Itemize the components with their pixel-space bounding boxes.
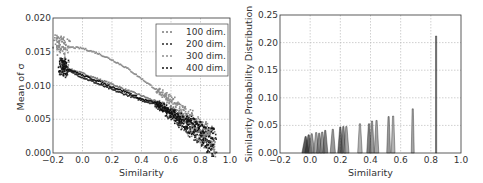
data-point	[178, 119, 180, 121]
data-point	[159, 106, 161, 108]
data-point	[157, 101, 159, 103]
data-point	[59, 70, 61, 72]
data-point	[178, 110, 180, 112]
data-point	[187, 128, 189, 130]
x-axis-label: Similarity	[348, 167, 393, 178]
data-point	[211, 155, 213, 157]
data-point	[178, 103, 180, 105]
data-point	[63, 73, 65, 75]
data-point	[59, 52, 61, 54]
data-point	[206, 143, 208, 145]
x-tick-label: 0.0	[303, 155, 318, 165]
data-point	[156, 107, 158, 109]
data-point	[166, 115, 168, 117]
data-point	[212, 133, 214, 135]
data-point	[106, 81, 108, 83]
data-point	[112, 59, 114, 61]
data-point	[204, 125, 206, 127]
data-point	[68, 61, 70, 63]
data-point	[175, 120, 177, 122]
data-point	[189, 114, 191, 116]
data-point	[210, 131, 212, 133]
data-point	[177, 103, 179, 105]
data-point	[55, 39, 57, 41]
data-point	[209, 131, 211, 133]
data-point	[213, 141, 215, 143]
x-tick-label: 0.2	[333, 155, 347, 165]
data-point	[184, 113, 186, 115]
x-axis-label: Similarity	[119, 167, 164, 178]
data-point	[182, 106, 184, 108]
data-point	[208, 142, 210, 144]
y-axis-label: Mean of σ	[15, 63, 26, 110]
data-point	[169, 109, 171, 111]
x-tick-label: 0.4	[134, 155, 149, 165]
data-point	[158, 104, 160, 106]
data-point	[193, 131, 195, 133]
data-point	[135, 95, 137, 97]
data-point	[176, 113, 178, 115]
data-point	[65, 59, 67, 61]
legend-marker	[162, 67, 164, 69]
data-point	[205, 129, 207, 131]
data-point	[203, 132, 205, 134]
data-point	[203, 127, 205, 129]
y-tick-label: 0.020	[25, 13, 51, 23]
x-tick-label: 0.8	[193, 155, 208, 165]
data-point	[140, 77, 142, 79]
data-point	[203, 139, 205, 141]
data-point	[150, 84, 152, 86]
data-point	[204, 127, 206, 129]
data-point	[198, 138, 200, 140]
y-tick-label: 0.05	[258, 120, 278, 130]
data-point	[196, 140, 198, 142]
data-point	[191, 113, 193, 115]
data-point	[60, 58, 62, 60]
y-axis-label: Similarity Probability Distribution	[243, 6, 254, 163]
data-point	[196, 134, 198, 136]
data-point	[202, 131, 204, 133]
data-point	[210, 149, 212, 151]
data-point	[85, 48, 87, 50]
data-point	[191, 122, 193, 124]
data-point	[175, 115, 177, 117]
x-tick-label: 0.6	[394, 155, 409, 165]
data-point	[58, 43, 60, 45]
y-tick-label: 0.015	[25, 47, 51, 57]
data-point	[173, 109, 175, 111]
data-point	[66, 62, 68, 64]
data-point	[182, 116, 184, 118]
data-point	[215, 156, 217, 158]
data-point	[197, 131, 199, 133]
data-point	[187, 132, 189, 134]
data-point	[215, 134, 217, 136]
data-point	[187, 113, 189, 115]
data-point	[65, 65, 67, 67]
data-point	[206, 134, 208, 136]
data-point	[125, 88, 127, 90]
data-point	[211, 126, 213, 128]
data-point	[192, 127, 194, 129]
data-point	[192, 123, 194, 125]
data-point	[205, 137, 207, 139]
data-point	[200, 129, 202, 131]
data-point	[194, 137, 196, 139]
data-point	[168, 96, 170, 98]
data-point	[165, 95, 167, 97]
legend-marker	[162, 31, 164, 33]
data-point	[62, 60, 64, 62]
data-point	[155, 88, 157, 90]
data-point	[206, 145, 208, 147]
distribution-peak	[370, 121, 375, 153]
data-point	[170, 117, 172, 119]
distribution-peak	[436, 36, 437, 153]
data-point	[63, 70, 65, 72]
data-point	[67, 38, 69, 40]
data-point	[179, 116, 181, 118]
data-point	[174, 123, 176, 125]
data-point	[66, 72, 68, 74]
data-point	[199, 140, 201, 142]
data-point	[181, 122, 183, 124]
data-point	[208, 136, 210, 138]
data-point	[201, 144, 203, 146]
